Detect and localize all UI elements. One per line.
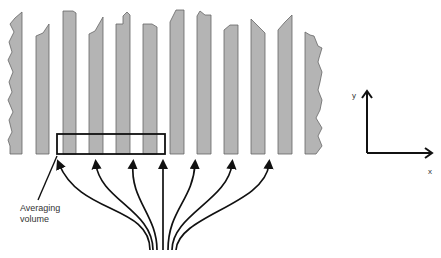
bar (197, 11, 211, 154)
bar (251, 19, 265, 154)
bar (36, 24, 49, 154)
label-line1: Averaging (20, 203, 60, 214)
bar (63, 11, 76, 154)
bar (170, 10, 184, 154)
y-axis-label: y (352, 90, 356, 101)
arrow (133, 164, 157, 250)
arrow (59, 164, 150, 250)
arrow (176, 164, 269, 250)
x-axis-arrow (367, 148, 432, 158)
label-line2: volume (20, 214, 60, 225)
bar (116, 12, 130, 154)
bars (8, 10, 322, 154)
x-axis-label: x (428, 166, 432, 177)
diagram-canvas (0, 0, 441, 258)
y-axis-arrow (362, 91, 372, 153)
averaging-volume-label: Averaging volume (20, 203, 60, 225)
bar-jagged-left (8, 12, 22, 154)
arrows (59, 164, 269, 250)
bar-jagged-right (305, 32, 322, 154)
bar (224, 25, 238, 154)
callout-line (38, 156, 57, 200)
bar (278, 15, 292, 154)
coordinate-axes (362, 91, 432, 158)
